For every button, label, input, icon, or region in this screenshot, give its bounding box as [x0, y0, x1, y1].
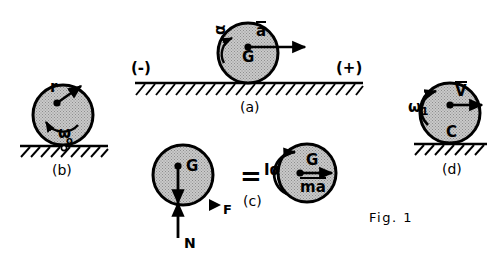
panel-c-equals-sign: = — [240, 163, 262, 189]
panel-a-sign-negative-label: (-) — [131, 61, 151, 76]
panel-d-velocity-label: V — [455, 84, 467, 99]
panel-c-inertia-force-label: ma — [300, 180, 326, 195]
panel-b-caption: (b) — [52, 163, 72, 177]
panel-a-acceleration-label: a — [256, 24, 266, 39]
panel-b-radius-label: r — [50, 80, 57, 95]
panel-c-friction-arrowhead — [209, 199, 221, 211]
panel-b-contact-point-marker — [61, 145, 66, 150]
panel-c-caption: (c) — [243, 194, 262, 208]
panel-c-normal-label: N — [184, 236, 196, 250]
figure-vector-layer — [0, 0, 498, 255]
panel-d-contact-point-label: C — [446, 125, 457, 140]
panel-a-sign-positive-label: (+) — [336, 61, 362, 76]
panel-d-caption: (d) — [442, 162, 462, 176]
panel-c-right-center-label: G — [306, 153, 318, 168]
panel-a-ground — [135, 83, 363, 95]
panel-a-angular-accel-label: α — [213, 25, 228, 35]
panel-b-contact-point-label: o — [66, 136, 73, 146]
figure-caption: Fig. 1 — [369, 211, 413, 224]
panel-d-ground — [414, 144, 487, 155]
panel-d-graphics — [414, 83, 487, 155]
figure-canvas: G a α (-) (+) (a) r ω o (b) G F N = Iα G… — [0, 0, 498, 255]
panel-c-friction-label: F — [223, 203, 232, 216]
panel-b-graphics — [20, 85, 108, 157]
panel-a-caption: (a) — [240, 100, 260, 114]
panel-d-angular-velocity-label: ω1 — [408, 100, 429, 117]
panel-c-left-disk — [153, 145, 213, 205]
panel-a-center-label: G — [242, 50, 254, 65]
panel-c-inertia-couple-label: Iα — [264, 163, 280, 178]
panel-c-left-center-label: G — [186, 159, 198, 174]
